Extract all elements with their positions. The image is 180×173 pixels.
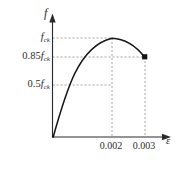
y-tick-subscript-085fck: ck — [44, 55, 50, 62]
y-tick-label-05fck: 0.5fck — [2, 79, 50, 91]
y-tick-label-085fck: 0.85fck — [2, 51, 50, 63]
y-axis-arrowhead — [49, 14, 55, 23]
endpoint-marker — [142, 54, 147, 59]
y-tick-subscript-fck: ck — [44, 36, 50, 43]
y-tick-label-fck: fck — [6, 32, 50, 44]
y-tick-subscript-05fck: ck — [44, 83, 50, 90]
y-tick-prefix-085fck: 0.85 — [22, 50, 40, 61]
stress-strain-figure: f ε fck 0.85fck 0.5fck 0.002 0.003 — [0, 0, 180, 173]
x-tick-label-0003: 0.003 — [124, 141, 164, 151]
y-axis-label: f — [44, 7, 47, 19]
x-axis-label: ε — [166, 136, 170, 147]
y-tick-prefix-05fck: 0.5 — [28, 78, 41, 89]
stress-strain-curve — [53, 38, 144, 137]
